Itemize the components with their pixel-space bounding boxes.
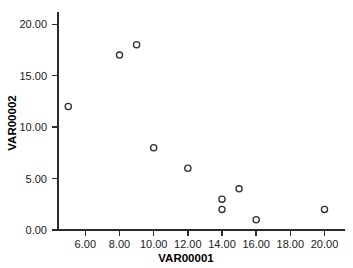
- x-tick-label: 14.00: [208, 238, 236, 250]
- x-tick-label: 16.00: [242, 238, 270, 250]
- plot-background: [0, 0, 353, 268]
- plot-canvas: 0.005.0010.0015.0020.00 6.008.0010.0012.…: [0, 0, 353, 268]
- x-tick-label: 18.00: [277, 238, 305, 250]
- y-tick-label: 10.00: [19, 121, 47, 133]
- y-tick-label: 5.00: [26, 173, 47, 185]
- scatter-plot-figure: 0.005.0010.0015.0020.00 6.008.0010.0012.…: [0, 0, 353, 268]
- x-tick-label: 8.00: [109, 238, 130, 250]
- y-axis-title: VAR00002: [6, 95, 18, 150]
- x-tick-label: 10.00: [140, 238, 168, 250]
- y-tick-label: 0.00: [26, 224, 47, 236]
- x-axis-title: VAR00001: [158, 252, 214, 264]
- x-tick-label: 6.00: [75, 238, 96, 250]
- x-tick-label: 20.00: [311, 238, 339, 250]
- x-tick-label: 12.00: [174, 238, 202, 250]
- y-tick-label: 20.00: [19, 18, 47, 30]
- y-tick-label: 15.00: [19, 70, 47, 82]
